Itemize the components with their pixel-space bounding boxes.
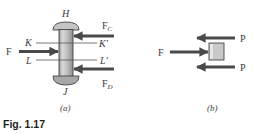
bolt-head-bottom bbox=[53, 76, 79, 85]
label-b-force-p-top: P bbox=[240, 33, 246, 44]
bolt-head-top bbox=[53, 22, 79, 30]
label-l: L bbox=[25, 55, 32, 66]
panel-b-sublabel: (b) bbox=[207, 103, 218, 113]
figure-caption: Fig. 1.17 bbox=[3, 118, 45, 130]
label-h: H bbox=[61, 8, 70, 19]
label-k: K bbox=[24, 37, 33, 48]
label-k-prime: K′ bbox=[98, 38, 109, 49]
label-force-fc: FC bbox=[102, 20, 113, 33]
panel-a-sublabel: (a) bbox=[60, 103, 71, 113]
label-b-force-f: F bbox=[158, 47, 164, 58]
panel-b: F P P (b) bbox=[158, 33, 246, 113]
label-l-prime: L′ bbox=[99, 55, 109, 66]
bolt bbox=[53, 22, 79, 85]
panel-a: H J K K′ L L′ F FC FD (a) bbox=[6, 8, 114, 113]
bolt-shank bbox=[59, 30, 73, 77]
label-force-fd: FD bbox=[102, 78, 113, 91]
label-j: J bbox=[63, 86, 68, 97]
figure-canvas: H J K K′ L L′ F FC FD (a) F P P (b) Fig.… bbox=[0, 0, 266, 134]
block-highlight bbox=[210, 44, 213, 59]
label-b-force-p-bottom: P bbox=[240, 62, 246, 73]
label-force-f: F bbox=[6, 46, 12, 57]
